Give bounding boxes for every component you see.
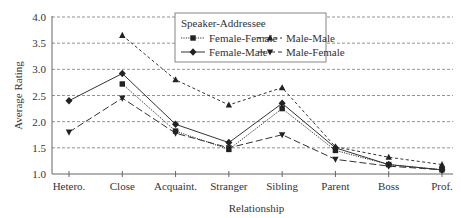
y-axis-title: Average Rating — [12, 61, 24, 130]
line-chart: 1.01.52.02.53.03.54.0Hetero.CloseAcquain… — [0, 0, 461, 218]
y-tick-label: 2.0 — [32, 116, 46, 128]
y-tick-label: 4.0 — [32, 11, 46, 23]
x-tick-label: Boss — [378, 180, 399, 192]
series-female-female — [120, 81, 445, 172]
y-tick-label: 2.5 — [32, 90, 46, 102]
svg-text:Male-Male: Male-Male — [286, 32, 335, 44]
x-tick-label: Sibling — [266, 180, 298, 192]
x-tick-label: Stranger — [210, 180, 248, 192]
legend: Speaker-AddresseeFemale-FemaleMale-MaleF… — [175, 13, 345, 62]
x-tick-label: Prof. — [431, 180, 453, 192]
x-tick-label: Hetero. — [53, 180, 86, 192]
svg-text:Male-Female: Male-Female — [286, 46, 345, 58]
y-tick-label: 1.5 — [32, 142, 46, 154]
x-tick-label: Parent — [321, 180, 349, 192]
y-tick-label: 3.0 — [32, 63, 46, 75]
y-tick-label: 3.5 — [32, 37, 46, 49]
x-tick-label: Acquaint. — [154, 180, 197, 192]
x-axis-title: Relationship — [229, 202, 285, 214]
legend-title: Speaker-Addressee — [181, 17, 266, 29]
y-tick-label: 1.0 — [32, 168, 46, 180]
x-tick-label: Close — [110, 180, 135, 192]
svg-text:Female-Female: Female-Female — [209, 32, 278, 44]
